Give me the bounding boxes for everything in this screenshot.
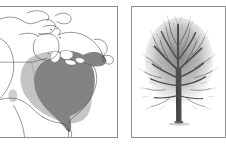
panel-range-map [0,6,118,138]
panel-tree-photo [131,6,226,138]
range-map-graphic [0,7,117,137]
tree-photo-graphic [132,7,225,137]
tree-ground-shadow [168,123,190,126]
disjunct-population-patch [8,89,17,102]
figure-root [0,0,226,149]
